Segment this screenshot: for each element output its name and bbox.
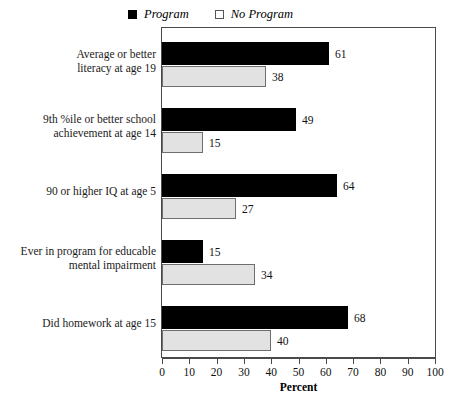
x-tick-80 xyxy=(380,358,381,364)
bar-value-program-iq: 64 xyxy=(343,181,355,193)
bar-program-homework xyxy=(162,306,348,329)
bar-value-no-program-homework: 40 xyxy=(277,336,289,348)
bar-value-program-achievement: 49 xyxy=(302,115,314,127)
category-label-achievement: 9th %ile or better school achievement at… xyxy=(4,113,156,140)
x-tick-20 xyxy=(217,358,218,364)
x-tick-label-60: 60 xyxy=(320,366,332,378)
bar-value-no-program-achievement: 15 xyxy=(209,138,221,150)
category-label-line: Average or better xyxy=(4,48,156,62)
x-tick-label-80: 80 xyxy=(375,366,387,378)
x-tick-100 xyxy=(435,358,436,364)
x-tick-label-30: 30 xyxy=(238,366,250,378)
bar-value-program-homework: 68 xyxy=(354,313,366,325)
x-tick-label-100: 100 xyxy=(426,366,443,378)
x-tick-label-20: 20 xyxy=(211,366,223,378)
category-label-impairment: Ever in program for educable mental impa… xyxy=(4,245,156,272)
bar-no-program-impairment xyxy=(162,264,255,285)
category-label-iq: 90 or higher IQ at age 5 xyxy=(4,185,156,199)
category-label-homework: Did homework at age 15 xyxy=(4,317,156,331)
category-label-line: 9th %ile or better school xyxy=(4,113,156,127)
x-tick-label-10: 10 xyxy=(184,366,196,378)
bar-value-no-program-literacy: 38 xyxy=(272,72,284,84)
x-tick-label-40: 40 xyxy=(265,366,277,378)
x-tick-label-90: 90 xyxy=(402,366,414,378)
category-label-literacy: Average or better literacy at age 19 xyxy=(4,48,156,75)
x-tick-label-50: 50 xyxy=(293,366,305,378)
bar-chart: Program No Program Average or better lit… xyxy=(0,0,452,396)
x-tick-30 xyxy=(244,358,245,364)
bar-program-achievement xyxy=(162,108,296,131)
bar-no-program-achievement xyxy=(162,132,203,153)
x-tick-0 xyxy=(162,358,163,364)
bar-program-literacy xyxy=(162,42,329,65)
bars-layer: 61 38 49 15 64 27 15 34 68 40 xyxy=(162,28,435,357)
x-tick-60 xyxy=(326,358,327,364)
x-tick-10 xyxy=(189,358,190,364)
category-label-line: mental impairment xyxy=(4,259,156,273)
bar-value-no-program-iq: 27 xyxy=(242,204,254,216)
x-tick-70 xyxy=(353,358,354,364)
x-tick-40 xyxy=(271,358,272,364)
bar-no-program-literacy xyxy=(162,66,266,87)
category-labels: Average or better literacy at age 19 9th… xyxy=(0,0,156,396)
legend-label-no-program: No Program xyxy=(231,8,293,21)
bar-value-program-impairment: 15 xyxy=(209,247,221,259)
category-label-line: achievement at age 14 xyxy=(4,127,156,141)
bar-program-iq xyxy=(162,174,337,197)
bar-no-program-iq xyxy=(162,198,236,219)
category-label-line: 90 or higher IQ at age 5 xyxy=(4,185,156,199)
hollow-square-icon xyxy=(215,10,224,19)
category-label-line: literacy at age 19 xyxy=(4,62,156,76)
bar-program-impairment xyxy=(162,240,203,263)
category-label-line: Did homework at age 15 xyxy=(4,317,156,331)
bar-value-no-program-impairment: 34 xyxy=(261,270,273,282)
legend-entry-no-program: No Program xyxy=(215,8,293,21)
x-axis-title: Percent xyxy=(162,381,435,393)
x-tick-label-70: 70 xyxy=(347,366,359,378)
category-label-line: Ever in program for educable xyxy=(4,245,156,259)
bar-value-program-literacy: 61 xyxy=(335,49,347,61)
x-tick-label-0: 0 xyxy=(159,366,165,378)
x-tick-50 xyxy=(299,358,300,364)
x-tick-90 xyxy=(408,358,409,364)
bar-no-program-homework xyxy=(162,330,271,351)
